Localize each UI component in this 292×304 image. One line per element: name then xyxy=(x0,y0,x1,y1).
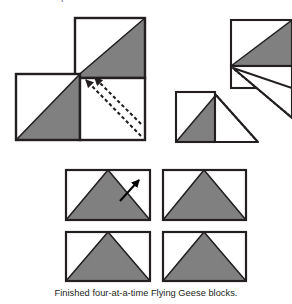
folded-unit-upper-right xyxy=(231,20,292,118)
pinwheel-quadrant-top-right xyxy=(75,18,145,78)
flying-geese-block-4 xyxy=(163,232,246,281)
figure-caption: Finished four-at-a-time Flying Geese blo… xyxy=(0,287,292,299)
illustration-stage xyxy=(0,0,292,304)
flying-geese-block-2 xyxy=(163,170,246,220)
folded-unit-middle-right xyxy=(176,92,258,142)
flying-geese-block-1 xyxy=(66,170,150,220)
flying-geese-illustration xyxy=(0,0,292,304)
main-pinwheel-unit xyxy=(16,18,145,140)
flying-geese-block-3 xyxy=(66,232,150,281)
pinwheel-quadrant-lower-left xyxy=(16,74,80,140)
